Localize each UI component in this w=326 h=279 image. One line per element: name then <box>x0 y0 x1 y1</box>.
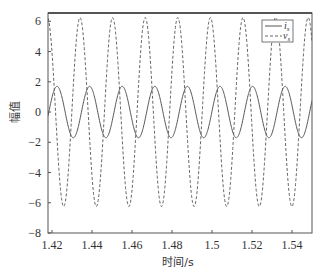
y-tick-label: 2 <box>35 75 41 89</box>
x-tick-label: 1.42 <box>42 238 63 252</box>
x-tick-label: 1.5 <box>205 238 220 252</box>
plot-background <box>48 13 312 233</box>
y-tick-label: 4 <box>35 45 41 59</box>
x-tick-label: 1.46 <box>122 238 143 252</box>
x-tick-label: 1.48 <box>162 238 183 252</box>
y-axis-label: 幅值 <box>9 101 22 123</box>
y-tick-label: −4 <box>28 166 41 180</box>
y-tick-label: −2 <box>28 135 41 149</box>
x-tick-label: 1.54 <box>282 238 303 252</box>
x-tick-label: 1.52 <box>242 238 263 252</box>
y-tick-label: −8 <box>28 226 41 240</box>
x-axis-label: 时间/s <box>162 256 194 269</box>
plot-area <box>48 13 312 233</box>
x-tick-label: 1.44 <box>82 238 103 252</box>
y-tick-label: 6 <box>35 14 41 28</box>
chart: 1.421.441.461.481.51.521.54 6420−2−4−6−8… <box>0 0 326 279</box>
y-tick-label: 0 <box>35 105 41 119</box>
legend: is vs <box>262 20 293 43</box>
y-tick-label: −6 <box>28 196 41 210</box>
